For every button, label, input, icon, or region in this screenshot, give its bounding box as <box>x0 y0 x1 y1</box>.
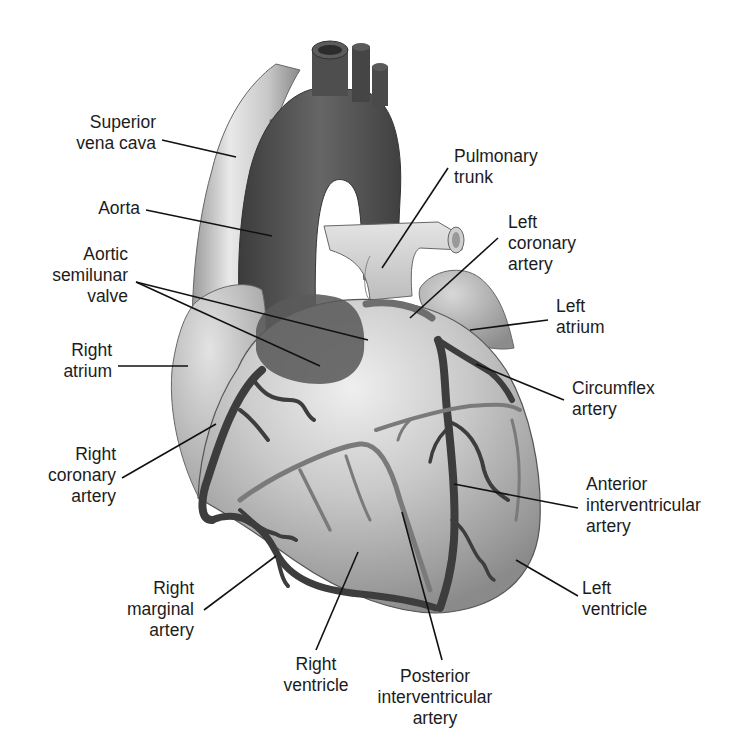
label-aorta: Aorta <box>88 198 140 219</box>
heart-diagram: Superior vena cavaAortaAortic semilunar … <box>0 0 749 749</box>
leader-line-right-marginal-artery <box>204 556 276 610</box>
label-right-marginal-artery: Right marginal artery <box>108 578 194 641</box>
label-pulmonary-trunk: Pulmonary trunk <box>454 146 554 188</box>
label-left-atrium: Left atrium <box>556 296 626 338</box>
label-left-ventricle: Left ventricle <box>582 578 662 620</box>
label-right-atrium: Right atrium <box>40 340 112 382</box>
leader-line-left-ventricle <box>516 560 578 596</box>
label-right-ventricle: Right ventricle <box>280 654 352 696</box>
aortic-root-shape <box>256 294 364 384</box>
label-anterior-interventricular-artery: Anterior interventricular artery <box>586 474 726 537</box>
label-posterior-interventricular-artery: Posterior interventricular artery <box>372 666 498 729</box>
label-right-coronary-artery: Right coronary artery <box>26 444 116 507</box>
label-aortic-semilunar-valve: Aortic semilunar valve <box>30 244 128 307</box>
label-circumflex-artery: Circumflex artery <box>572 378 672 420</box>
label-left-coronary-artery: Left coronary artery <box>508 212 594 275</box>
label-superior-vena-cava: Superior vena cava <box>60 112 156 154</box>
